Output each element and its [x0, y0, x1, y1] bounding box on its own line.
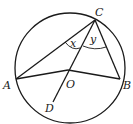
label-a: A	[2, 79, 11, 92]
segment-ca	[16, 20, 95, 79]
angle-label-x: x	[70, 37, 77, 50]
segment-ao	[16, 70, 68, 79]
label-o: O	[66, 78, 75, 91]
label-b: B	[122, 79, 131, 92]
segment-cb	[95, 20, 120, 79]
angle-label-y: y	[89, 33, 97, 46]
angle-arc-y	[83, 46, 106, 49]
label-d: D	[44, 102, 54, 115]
segment-ob	[68, 70, 120, 79]
geometry-diagram: C A B O D x y	[0, 0, 133, 124]
label-c: C	[95, 6, 104, 19]
